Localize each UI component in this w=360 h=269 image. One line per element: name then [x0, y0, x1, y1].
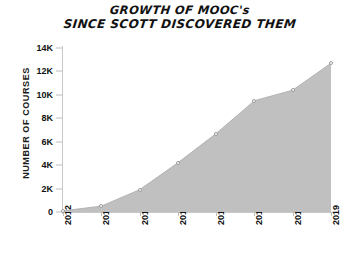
x-tick-label: 2013 — [101, 211, 111, 225]
data-point-marker — [176, 161, 180, 165]
x-tick-mark — [331, 212, 332, 216]
y-tick-mark — [56, 94, 62, 95]
y-tick-label: 12K — [19, 66, 53, 76]
chart-title-line-1: GROWTH OF MOOC's — [0, 3, 360, 17]
y-tick-mark — [56, 141, 62, 142]
data-point-marker — [329, 61, 333, 65]
y-tick-label: 0 — [19, 207, 53, 217]
chart-title: GROWTH OF MOOC's SINCE SCOTT DISCOVERED … — [0, 3, 360, 31]
x-tick-label: 2016 — [216, 211, 226, 225]
chart-title-line-2: SINCE SCOTT DISCOVERED THEM — [0, 17, 360, 31]
x-tick-label: 2015 — [178, 211, 188, 225]
y-tick-label: 8K — [19, 113, 53, 123]
chart-figure: GROWTH OF MOOC's SINCE SCOTT DISCOVERED … — [0, 0, 360, 269]
x-tick-mark — [140, 212, 141, 216]
y-tick-label: 6K — [19, 137, 53, 147]
plot-area — [63, 48, 331, 212]
y-tick-mark — [56, 71, 62, 72]
data-point-marker — [291, 88, 295, 92]
data-point-marker — [61, 209, 65, 213]
x-tick-label: 2012 — [63, 211, 73, 225]
x-tick-label: 2019 — [331, 211, 341, 225]
y-tick-label: 10K — [19, 90, 53, 100]
x-tick-label: 2018 — [293, 211, 303, 225]
y-tick-label: 2K — [19, 184, 53, 194]
x-tick-mark — [293, 212, 294, 216]
y-tick-label: 14K — [19, 43, 53, 53]
data-point-marker — [214, 132, 218, 136]
x-tick-label: 2017 — [254, 211, 264, 225]
y-tick-label: 4K — [19, 160, 53, 170]
data-point-marker — [138, 188, 142, 192]
x-tick-mark — [101, 212, 102, 216]
x-tick-mark — [178, 212, 179, 216]
x-tick-label: 2014 — [140, 211, 150, 225]
y-tick-mark — [56, 188, 62, 189]
x-tick-mark — [216, 212, 217, 216]
y-tick-mark — [56, 118, 62, 119]
x-tick-mark — [254, 212, 255, 216]
y-tick-mark — [56, 165, 62, 166]
area-series — [63, 48, 331, 212]
y-tick-mark — [56, 48, 62, 49]
